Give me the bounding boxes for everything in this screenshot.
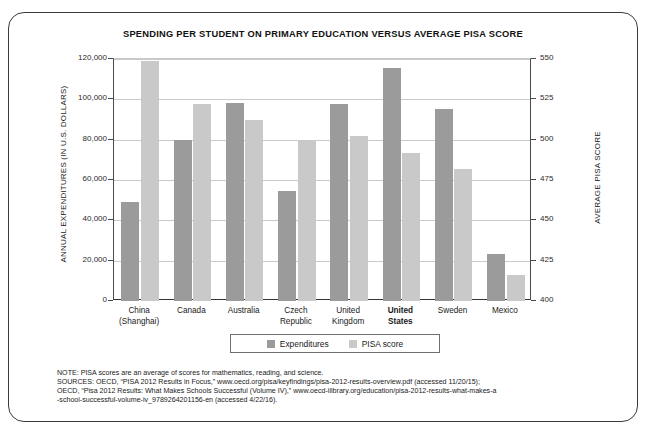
y-axis-tick-label-right: 475	[540, 174, 553, 183]
x-axis-category-label: Canada	[165, 306, 217, 317]
gridline	[114, 99, 530, 100]
y-axis-tick-label-left: 0	[47, 295, 107, 304]
x-axis-category-label-line: Canada	[165, 306, 217, 317]
y-axis-tick-mark-left	[108, 260, 113, 261]
bar-expenditures	[226, 103, 244, 301]
x-axis-category-label: China(Shanghai)	[113, 306, 165, 327]
y-axis-tick-mark-right	[531, 139, 536, 140]
y-axis-tick-mark-left	[108, 58, 113, 59]
bar-expenditures	[174, 140, 192, 301]
x-axis-category-label-line: Sweden	[427, 306, 479, 317]
y-axis-label-right: AVERAGE PISA SCORE	[593, 113, 602, 243]
note-line: NOTE: PISA scores are an average of scor…	[57, 369, 617, 378]
legend-item-expenditures: Expenditures	[267, 339, 329, 349]
y-axis-tick-mark-right	[531, 300, 536, 301]
y-axis-tick-mark-right	[531, 219, 536, 220]
x-axis-category-label-line: Czech	[270, 306, 322, 317]
bar-pisa-score	[350, 136, 368, 301]
y-axis-tick-label-left: 80,000	[47, 134, 107, 143]
bar-pisa-score	[454, 169, 472, 301]
legend-label-pisa-score: PISA score	[362, 339, 403, 349]
bar-pisa-score	[245, 120, 263, 301]
y-axis-tick-mark-right	[531, 58, 536, 59]
bar-expenditures	[278, 191, 296, 301]
y-axis-tick-label-right: 425	[540, 255, 553, 264]
bar-pisa-score	[507, 275, 525, 301]
y-axis-tick-mark-left	[108, 179, 113, 180]
sources-line: SOURCES: OECD, “PISA 2012 Results in Foc…	[57, 378, 617, 387]
x-axis-category-label-line: Mexico	[479, 306, 531, 317]
y-axis-tick-mark-right	[531, 98, 536, 99]
y-axis-tick-label-left: 20,000	[47, 255, 107, 264]
y-axis-tick-mark-left	[108, 300, 113, 301]
legend-swatch-pisa-score	[349, 340, 357, 348]
chart-title: SPENDING PER STUDENT ON PRIMARY EDUCATIO…	[9, 29, 637, 39]
x-axis-category-label: CzechRepublic	[270, 306, 322, 327]
y-axis-tick-label-left: 40,000	[47, 214, 107, 223]
y-axis-tick-label-left: 100,000	[47, 93, 107, 102]
x-axis-category-label: UnitedStates	[374, 306, 426, 327]
bar-pisa-score	[141, 61, 159, 301]
x-axis-category-label-line: States	[374, 317, 426, 328]
y-axis-tick-mark-left	[108, 219, 113, 220]
sources-line: -school-successful-volume-iv_97892642011…	[57, 396, 617, 405]
y-axis-tick-label-left: 120,000	[47, 53, 107, 62]
y-axis-tick-label-left: 60,000	[47, 174, 107, 183]
bar-pisa-score	[298, 140, 316, 301]
x-axis-category-label-line: United	[322, 306, 374, 317]
x-axis-category-label-line: Republic	[270, 317, 322, 328]
x-axis-category-label-line: Australia	[218, 306, 270, 317]
legend-swatch-expenditures	[267, 340, 275, 348]
chart-legend: Expenditures PISA score	[230, 334, 440, 353]
y-axis-tick-mark-left	[108, 139, 113, 140]
x-axis-category-label: UnitedKingdom	[322, 306, 374, 327]
y-axis-tick-mark-right	[531, 179, 536, 180]
x-axis-category-label: Australia	[218, 306, 270, 317]
chart-footnotes: NOTE: PISA scores are an average of scor…	[57, 369, 617, 405]
bar-pisa-score	[193, 104, 211, 301]
bar-expenditures	[383, 68, 401, 301]
x-axis-category-label: Mexico	[479, 306, 531, 317]
y-axis-tick-label-right: 400	[540, 295, 553, 304]
y-axis-tick-label-right: 450	[540, 214, 553, 223]
y-axis-tick-label-right: 550	[540, 53, 553, 62]
x-axis-category-label-line: (Shanghai)	[113, 317, 165, 328]
bar-expenditures	[487, 254, 505, 301]
y-axis-tick-mark-left	[108, 98, 113, 99]
y-axis-tick-label-right: 525	[540, 93, 553, 102]
plot-area	[113, 58, 531, 300]
x-axis-category-label-line: China	[113, 306, 165, 317]
bar-expenditures	[435, 109, 453, 301]
legend-label-expenditures: Expenditures	[280, 339, 329, 349]
gridline	[114, 59, 530, 60]
y-axis-tick-label-right: 500	[540, 134, 553, 143]
legend-item-pisa-score: PISA score	[349, 339, 403, 349]
y-axis-tick-mark-right	[531, 260, 536, 261]
chart-figure: SPENDING PER STUDENT ON PRIMARY EDUCATIO…	[8, 12, 638, 422]
x-axis-category-label-line: United	[374, 306, 426, 317]
bar-pisa-score	[402, 153, 420, 301]
sources-line: OECD, “Pisa 2012 Results: What Makes Sch…	[57, 387, 617, 396]
x-axis-category-label-line: Kingdom	[322, 317, 374, 328]
bar-expenditures	[330, 104, 348, 301]
x-axis-category-label: Sweden	[427, 306, 479, 317]
bar-expenditures	[121, 202, 139, 301]
